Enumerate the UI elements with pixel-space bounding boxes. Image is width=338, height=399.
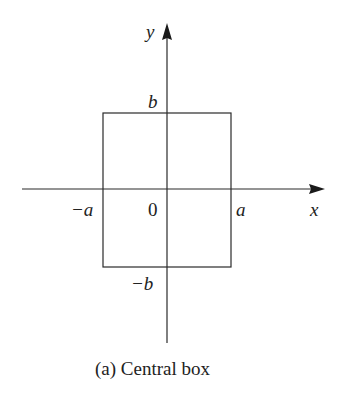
figure-caption: (a) Central box <box>95 358 211 380</box>
tick-label-a: a <box>236 199 246 220</box>
x-axis-label: x <box>309 199 319 220</box>
x-axis-arrow-icon <box>309 184 325 194</box>
y-axis-label: y <box>144 21 155 42</box>
tick-label-b: b <box>148 91 158 112</box>
origin-label: 0 <box>148 199 158 220</box>
central-box-diagram: y x b −b −a 0 a (a) Central box <box>0 0 338 399</box>
tick-label-neg-a: −a <box>71 199 93 220</box>
y-axis-arrow-icon <box>162 23 172 40</box>
tick-label-neg-b: −b <box>131 273 153 294</box>
